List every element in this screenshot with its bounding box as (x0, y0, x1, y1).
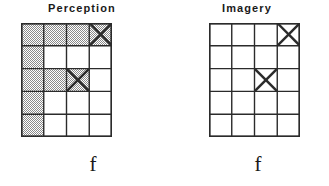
stimulus-figure: Perception f Imagery f (0, 0, 329, 186)
panel-label-imagery: f (165, 152, 329, 176)
grid-imagery (209, 23, 300, 137)
panel-imagery: Imagery f (165, 0, 329, 186)
panel-title-imagery: Imagery (165, 2, 329, 14)
panel-perception: Perception f (0, 0, 164, 186)
grid-svg-imagery (209, 23, 300, 137)
grid-perception (21, 23, 112, 137)
grid-svg-perception (21, 23, 112, 137)
panel-title-perception: Perception (0, 2, 164, 14)
panel-label-perception: f (0, 152, 164, 176)
